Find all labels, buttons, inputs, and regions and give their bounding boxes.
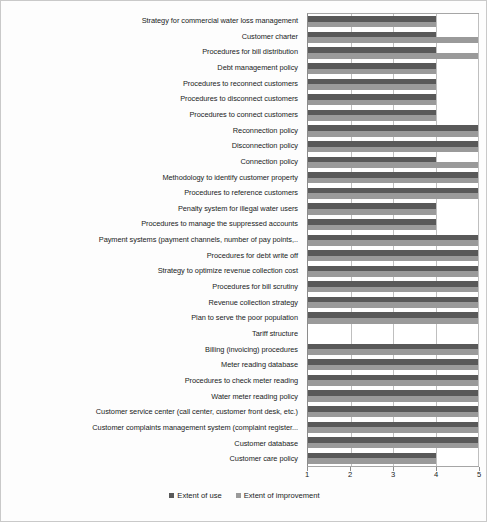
bar-extent-of-improvement <box>308 84 436 90</box>
bar-extent-of-improvement <box>308 271 478 277</box>
bar-group <box>308 388 478 404</box>
category-label: Payment systems (payment channels, numbe… <box>7 232 303 248</box>
category-label: Debt management policy <box>7 60 303 76</box>
bar-extent-of-improvement <box>308 22 436 28</box>
axis-tick-label: 2 <box>348 470 352 479</box>
plot-area <box>307 13 479 467</box>
bar-extent-of-improvement <box>308 443 478 449</box>
legend-label: Extent of use <box>177 491 221 500</box>
axis-tick-label: 4 <box>434 470 438 479</box>
bar-extent-of-improvement <box>308 302 478 308</box>
bar-group <box>308 14 478 30</box>
bar-group <box>308 30 478 46</box>
category-label: Procedures to disconnect customers <box>7 91 303 107</box>
axis-tick-label: 5 <box>477 470 481 479</box>
bar-group <box>308 295 478 311</box>
category-label: Water meter reading policy <box>7 389 303 405</box>
bar-group <box>308 357 478 373</box>
bar-extent-of-improvement <box>308 178 478 184</box>
bar-extent-of-improvement <box>308 427 478 433</box>
bar-extent-of-improvement <box>308 396 478 402</box>
bar-extent-of-improvement <box>308 69 436 75</box>
bar-extent-of-improvement <box>308 147 478 153</box>
bar-group <box>308 45 478 61</box>
bar-rows <box>308 14 478 466</box>
category-label: Methodology to identify customer propert… <box>7 170 303 186</box>
bar-extent-of-improvement <box>308 287 478 293</box>
bar-extent-of-improvement <box>308 318 478 324</box>
bar-group <box>308 170 478 186</box>
bar-group <box>308 264 478 280</box>
legend-swatch-icon <box>236 493 241 498</box>
bar-group <box>308 451 478 467</box>
bar-group <box>308 404 478 420</box>
category-label: Billing (invoicing) procedures <box>7 342 303 358</box>
category-label: Strategy for commercial water loss manag… <box>7 13 303 29</box>
bar-group <box>308 326 478 342</box>
bar-extent-of-improvement <box>308 131 478 137</box>
bar-group <box>308 201 478 217</box>
bar-group <box>308 232 478 248</box>
category-label: Tariff structure <box>7 326 303 342</box>
category-label: Connection policy <box>7 154 303 170</box>
bar-extent-of-improvement <box>308 458 436 464</box>
category-label: Procedures to reconnect customers <box>7 76 303 92</box>
gridline <box>478 14 479 466</box>
category-label: Revenue collection strategy <box>7 295 303 311</box>
category-label: Procedures for bill scrutiny <box>7 279 303 295</box>
bar-group <box>308 123 478 139</box>
bar-extent-of-improvement <box>308 225 436 231</box>
bar-group <box>308 373 478 389</box>
category-axis: Strategy for commercial water loss manag… <box>7 13 303 467</box>
bar-group <box>308 341 478 357</box>
category-label: Customer care policy <box>7 451 303 467</box>
bar-group <box>308 154 478 170</box>
bar-extent-of-improvement <box>308 256 478 262</box>
category-label: Customer service center (call center, cu… <box>7 404 303 420</box>
category-label: Customer charter <box>7 29 303 45</box>
legend-item[interactable]: Extent of use <box>169 491 221 500</box>
bar-extent-of-improvement <box>308 412 478 418</box>
axis-tick-label: 1 <box>305 470 309 479</box>
chart-legend: Extent of useExtent of improvement <box>1 491 487 500</box>
chart-page: Strategy for commercial water loss manag… <box>0 0 487 522</box>
category-label: Strategy to optimize revenue collection … <box>7 264 303 280</box>
bar-group <box>308 186 478 202</box>
bar-extent-of-improvement <box>308 193 478 199</box>
bar-group <box>308 76 478 92</box>
bar-extent-of-improvement <box>308 162 478 168</box>
value-axis: 12345 <box>307 467 479 481</box>
category-label: Procedures for bill distribution <box>7 44 303 60</box>
category-label: Procedures to connect customers <box>7 107 303 123</box>
bar-group <box>308 419 478 435</box>
category-label: Reconnection policy <box>7 123 303 139</box>
category-label: Meter reading database <box>7 357 303 373</box>
bar-group <box>308 435 478 451</box>
bar-group <box>308 310 478 326</box>
bar-group <box>308 61 478 77</box>
category-label: Customer complaints management system (c… <box>7 420 303 436</box>
bar-extent-of-improvement <box>308 115 436 121</box>
category-label: Penalty system for illegal water users <box>7 201 303 217</box>
bar-group <box>308 279 478 295</box>
legend-label: Extent of improvement <box>244 491 320 500</box>
legend-item[interactable]: Extent of improvement <box>236 491 320 500</box>
bar-extent-of-improvement <box>308 209 436 215</box>
category-label: Procedures to check meter reading <box>7 373 303 389</box>
category-label: Procedures for debt write off <box>7 248 303 264</box>
bar-extent-of-improvement <box>308 100 436 106</box>
bar-group <box>308 217 478 233</box>
legend-swatch-icon <box>169 493 174 498</box>
category-label: Customer database <box>7 436 303 452</box>
category-label: Procedures to reference customers <box>7 185 303 201</box>
bar-extent-of-improvement <box>308 53 478 59</box>
axis-tick-label: 3 <box>391 470 395 479</box>
bar-group <box>308 108 478 124</box>
bar-extent-of-improvement <box>308 349 478 355</box>
category-label: Procedures to manage the suppressed acco… <box>7 217 303 233</box>
bar-extent-of-improvement <box>308 240 478 246</box>
bar-group <box>308 248 478 264</box>
bar-extent-of-improvement <box>308 380 478 386</box>
bar-group <box>308 92 478 108</box>
category-label: Plan to serve the poor population <box>7 310 303 326</box>
